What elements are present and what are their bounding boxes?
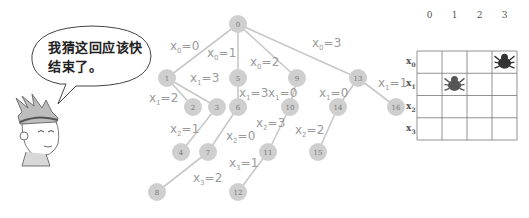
column-label: 2 — [477, 10, 483, 20]
figure-canvas: 我猜这回应该快 结束了。 015913236101416471115812 x0… — [0, 0, 529, 218]
row-label: x2 — [406, 101, 416, 113]
column-label: 0 — [427, 10, 433, 20]
column-label: 1 — [452, 10, 458, 20]
board-column-labels: 0123 — [427, 10, 508, 20]
board-row-labels: x0x1x2x3 — [406, 56, 416, 135]
spider-icon — [495, 54, 515, 68]
spider-icon — [445, 76, 465, 90]
chess-board: 0123 x0x1x2x3 — [0, 0, 529, 218]
row-label: x1 — [406, 78, 416, 90]
column-label: 3 — [502, 10, 508, 20]
board-pieces — [445, 54, 515, 90]
row-label: x0 — [406, 56, 416, 68]
row-label: x3 — [406, 123, 416, 135]
